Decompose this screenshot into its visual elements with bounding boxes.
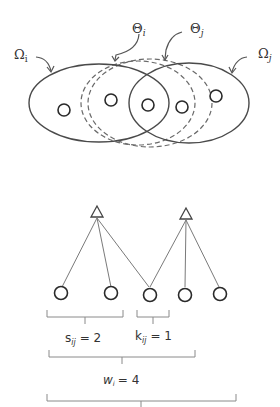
tree-edge — [62, 218, 97, 287]
total-brace — [47, 394, 236, 407]
child-node — [179, 289, 192, 302]
tree-edge — [150, 220, 186, 287]
w-label: wi= 4 — [103, 373, 139, 388]
w-brace — [49, 350, 195, 364]
theta-j-label: Θj — [190, 21, 204, 38]
theta-i-arrow — [115, 34, 139, 60]
parent-node — [91, 206, 103, 217]
child-node — [105, 287, 118, 300]
child-node — [55, 287, 68, 300]
venn-diagram: Ωi Θi Θj Ωj — [14, 21, 272, 147]
venn-element — [142, 99, 154, 111]
child-node — [144, 289, 157, 302]
diagram-canvas: Ωi Θi Θj Ωj sij= 2 kij= 1 wi= 4 — [0, 0, 280, 407]
s-label: sij= 2 — [65, 331, 101, 347]
tree-edge — [97, 218, 149, 287]
omega-j-label: Ωj — [258, 46, 272, 63]
venn-element — [210, 90, 222, 102]
venn-element — [58, 104, 70, 116]
k-label: kij= 1 — [135, 329, 172, 345]
tree-edge — [186, 220, 219, 287]
k-brace — [137, 310, 169, 324]
parent-node — [180, 208, 192, 219]
tree-edge — [185, 220, 186, 287]
tree-edge — [97, 218, 111, 287]
venn-element — [105, 94, 117, 106]
s-brace — [47, 310, 123, 324]
child-node — [214, 288, 227, 301]
tree-diagram: sij= 2 kij= 1 wi= 4 — [47, 206, 236, 407]
omega-i-label: Ωi — [14, 47, 28, 64]
venn-element — [176, 101, 188, 113]
theta-i-label: Θi — [132, 21, 146, 38]
